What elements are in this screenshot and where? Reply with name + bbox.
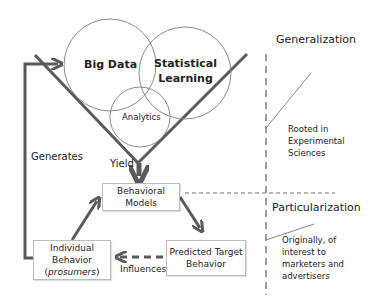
- prosumers-text: prosumers: [48, 267, 96, 277]
- behavioral-models-box: Behavioral Models: [102, 183, 180, 211]
- predicted-target-line2: Behavior: [186, 258, 226, 270]
- individual-behavior-line1: Individual: [50, 242, 94, 254]
- generalization-callout-line: [266, 73, 311, 128]
- models-to-predicted-arrow: [180, 197, 200, 228]
- generalization-note-line1: Rooted in: [288, 123, 345, 135]
- analytics-label: Analytics: [122, 112, 161, 122]
- statistical-learning-line2: Learning: [154, 71, 217, 86]
- particularization-note: Originally, of interest to marketers and…: [282, 234, 344, 282]
- particularization-note-line3: marketers and: [282, 258, 344, 270]
- generalization-note: Rooted in Experimental Sciences: [288, 123, 345, 159]
- big-data-label: Big Data: [84, 58, 137, 71]
- behavioral-models-line1: Behavioral: [117, 185, 165, 197]
- individual-behavior-line3: (prosumers): [44, 266, 99, 278]
- generalization-title: Generalization: [276, 33, 356, 46]
- statistical-learning-line1: Statistical: [154, 56, 217, 71]
- generalization-note-line3: Sciences: [288, 147, 345, 159]
- statistical-learning-label: Statistical Learning: [154, 56, 217, 86]
- yield-label: Yield: [110, 158, 134, 169]
- individual-behavior-line2: Behavior: [52, 254, 92, 266]
- influences-label: Influences: [120, 264, 166, 274]
- behavioral-models-line2: Models: [125, 197, 157, 209]
- individual-to-models-arrow: [72, 201, 97, 240]
- generates-label: Generates: [31, 151, 83, 162]
- predicted-target-behavior-box: Predicted Target Behavior: [166, 240, 246, 276]
- particularization-note-line2: interest to: [282, 246, 344, 258]
- particularization-note-line4: advertisers: [282, 270, 344, 282]
- particularization-title: Particularization: [272, 201, 361, 214]
- particularization-note-line1: Originally, of: [282, 234, 344, 246]
- predicted-target-line1: Predicted Target: [170, 246, 243, 258]
- generalization-note-line2: Experimental: [288, 135, 345, 147]
- individual-behavior-box: Individual Behavior (prosumers): [33, 240, 111, 280]
